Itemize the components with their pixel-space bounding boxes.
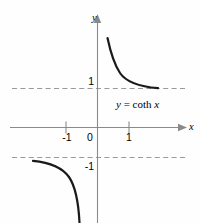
- plot-canvas: [0, 0, 200, 223]
- curve-equation-x-symbol: x: [154, 98, 159, 110]
- y-axis-label: y: [92, 12, 97, 23]
- curve-equation-label: y = coth x: [116, 98, 159, 110]
- curve-coth-negative-branch: [33, 161, 80, 223]
- x-axis-arrow-icon: [178, 124, 187, 131]
- x-axis-label: x: [189, 121, 194, 132]
- y-axis-tick-label-neg1: -1: [76, 160, 94, 172]
- x-axis-tick-label-neg1: -1: [58, 131, 76, 143]
- curve-equation-operator: = coth: [121, 98, 154, 110]
- coth-graph-figure: -1 0 1 1 -1 y x y = coth x: [0, 0, 200, 223]
- x-axis-tick-label-pos1: 1: [122, 131, 136, 143]
- y-axis-tick-label-pos1: 1: [80, 75, 94, 87]
- x-axis-tick-label-zero: 0: [83, 131, 97, 143]
- curve-coth-positive-branch: [108, 38, 159, 88]
